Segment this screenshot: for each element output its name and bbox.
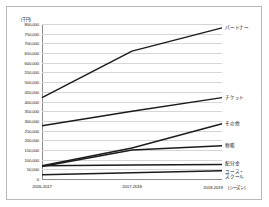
series-label-partner: パートナー <box>225 25 249 30</box>
y-axis-tick-labels: 800,000750,000700,000650,000600,000550,0… <box>7 24 39 179</box>
series-label-other: その他 <box>225 121 239 126</box>
y-axis-tick-label: 500,000 <box>25 80 39 85</box>
series-line <box>42 171 222 175</box>
y-axis-tick-label: 800,000 <box>25 22 39 27</box>
y-axis-tick-label: 750,000 <box>25 31 39 36</box>
series-label-ticket: チケット <box>225 95 244 100</box>
y-axis-tick-label: 150,000 <box>25 147 39 152</box>
plot-area <box>42 24 222 179</box>
y-axis-tick-label: 100,000 <box>25 157 39 162</box>
y-axis-tick-label: 200,000 <box>25 138 39 143</box>
y-axis-tick-label: 650,000 <box>25 51 39 56</box>
series-label-youth-school: ユース・スクール <box>225 169 244 180</box>
y-axis-tick-label: 0 <box>37 177 39 182</box>
y-axis-tick-label: 550,000 <box>25 70 39 75</box>
y-axis-tick-label: 300,000 <box>25 118 39 123</box>
gridline <box>42 179 222 180</box>
series-line <box>42 124 222 166</box>
x-axis-tick-3-text: 2018-2019 <box>203 185 223 190</box>
y-axis-tick-label: 250,000 <box>25 128 39 133</box>
chart-frame: （千円） 800,000750,000700,000650,000600,000… <box>6 6 262 200</box>
x-axis-tick-2017-2018: 2017-2018 <box>122 184 142 189</box>
y-axis-tick-label: 400,000 <box>25 99 39 104</box>
series-line <box>42 98 222 126</box>
x-axis-tick-2018-2019: 2018-2019（シーズン） <box>203 184 248 190</box>
series-label-merchandise: 物販 <box>225 143 235 148</box>
x-axis-tick-2016-2017: 2016-2017 <box>32 184 52 189</box>
y-axis-tick-label: 700,000 <box>25 41 39 46</box>
series-line <box>42 146 222 167</box>
series-lines <box>42 24 222 179</box>
series-line <box>42 164 222 165</box>
y-axis-tick-label: 600,000 <box>25 60 39 65</box>
youth-label-line2: スクール <box>225 174 244 179</box>
y-axis-tick-label: 350,000 <box>25 109 39 114</box>
series-line <box>42 28 222 98</box>
youth-label-line1: ユース・ <box>225 169 244 174</box>
y-axis-tick-label: 50,000 <box>27 167 39 172</box>
y-axis-tick-label: 450,000 <box>25 89 39 94</box>
season-note: （シーズン） <box>225 185 248 190</box>
series-label-distribution: 配分金 <box>225 161 239 166</box>
